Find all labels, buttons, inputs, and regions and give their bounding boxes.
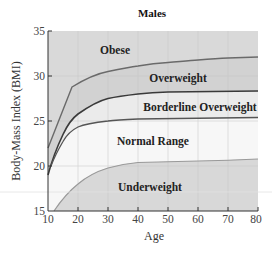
- region-label-overweight: Overweight: [149, 72, 207, 85]
- y-tick-label: 20: [34, 160, 46, 172]
- x-tick-label: 30: [102, 213, 114, 225]
- x-tick-labels: 10 20 30 40 50 60 70 80: [42, 213, 262, 225]
- x-tick-label: 80: [250, 213, 262, 225]
- x-tick-label: 70: [222, 213, 234, 225]
- x-tick-label: 40: [132, 213, 144, 225]
- x-tick-label: 20: [72, 213, 84, 225]
- bmi-chart: Males: [0, 0, 272, 254]
- region-label-borderline: Borderline Overweight: [143, 101, 257, 114]
- x-axis-label: Age: [144, 229, 164, 243]
- y-tick-label: 35: [34, 25, 46, 37]
- y-tick-label: 30: [34, 70, 46, 82]
- y-tick-labels: 15 20 25 30 35: [34, 25, 46, 217]
- y-tick-label: 25: [34, 115, 46, 127]
- x-tick-label: 60: [192, 213, 204, 225]
- region-label-obese: Obese: [100, 44, 130, 56]
- x-tick-label: 10: [42, 213, 54, 225]
- region-label-underweight: Underweight: [118, 181, 182, 194]
- region-label-normal: Normal Range: [117, 135, 189, 148]
- chart-title: Males: [138, 7, 167, 19]
- y-axis-label: Body-Mass Index (BMI): [9, 61, 23, 180]
- x-tick-label: 50: [162, 213, 174, 225]
